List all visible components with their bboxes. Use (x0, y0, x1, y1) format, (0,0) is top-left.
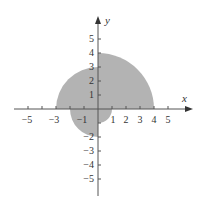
x-tick-label: 5 (166, 114, 171, 125)
y-tick-label: 5 (89, 33, 94, 44)
x-tick-label: 2 (124, 114, 129, 125)
polar-region-plot: x y −5 −3 −1 1 2 3 4 5 5 4 3 2 1 −2 −3 −… (0, 0, 203, 210)
y-tick-label: −2 (83, 131, 94, 142)
x-tick-label: −3 (49, 114, 60, 125)
x-tick-label: 1 (111, 114, 116, 125)
y-axis-arrow-icon (95, 16, 101, 24)
y-axis-label: y (104, 14, 110, 26)
x-tick-label: 3 (138, 114, 143, 125)
y-tick-label: 3 (89, 61, 94, 72)
y-tick-label: −3 (83, 145, 94, 156)
x-axis-arrow-icon (185, 106, 193, 112)
x-tick-label: 4 (152, 114, 157, 125)
x-tick-label: −1 (77, 114, 88, 125)
y-tick-label: 1 (89, 89, 94, 100)
y-tick-label: 2 (89, 75, 94, 86)
y-tick-label: −4 (83, 159, 94, 170)
x-tick-label: −5 (22, 114, 33, 125)
x-axis-label: x (181, 92, 187, 104)
y-tick-label: −5 (83, 173, 94, 184)
y-tick-label: 4 (89, 47, 94, 58)
